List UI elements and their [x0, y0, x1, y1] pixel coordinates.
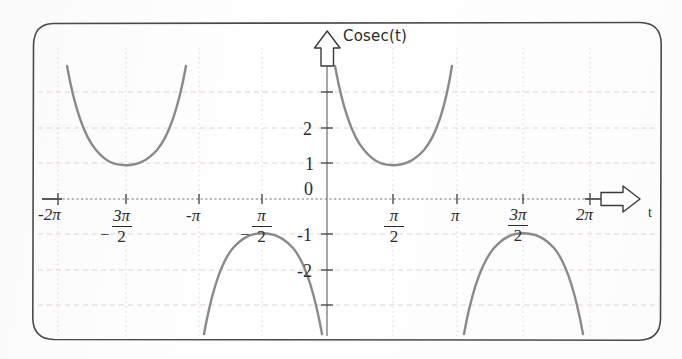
- curve-branch-neg2pi-negpi: [67, 66, 186, 165]
- y-tick-label-1: 1: [305, 155, 314, 173]
- y-tick-label-0: 0: [304, 180, 313, 198]
- x-tick-label-neg-pi: -π: [186, 207, 200, 224]
- y-tick-label-2: 2: [303, 120, 312, 138]
- vertical-gridlines: [58, 48, 590, 336]
- curve-branch-negpi-zero: [204, 233, 322, 334]
- y-axis: [321, 66, 333, 336]
- y-tick-label-neg1: -1: [297, 226, 312, 244]
- hollow-up-arrow-icon: [315, 31, 341, 66]
- horizontal-gridlines: [38, 92, 655, 305]
- fraction-numerator: π: [389, 207, 400, 225]
- x-tick-label-pi-over-2: π 2: [384, 207, 404, 245]
- cosec-curve: [67, 66, 583, 334]
- x-tick-label-pi: π: [451, 207, 460, 224]
- y-axis-title: Cosec(t): [343, 29, 407, 44]
- x-axis-title: t: [648, 206, 652, 220]
- chart-plot-area: [0, 0, 682, 359]
- figure-canvas: Cosec(t) t 2 1 0 -1 -2 -2π − 3π 2 -π − π…: [0, 0, 682, 359]
- fraction-denominator: 2: [513, 227, 524, 245]
- x-tick-label-3pi-over-2: 3π 2: [508, 206, 528, 244]
- fraction-sign: −: [240, 226, 250, 243]
- hollow-right-arrow-icon: [601, 186, 640, 212]
- y-tick-label-neg2: -2: [297, 262, 312, 280]
- fraction-numerator: π: [256, 207, 267, 225]
- x-tick-label-2pi: 2π: [576, 206, 593, 223]
- x-axis: [42, 193, 604, 205]
- fraction-sign: −: [100, 226, 110, 243]
- fraction-denominator: 2: [389, 228, 400, 246]
- fraction-denominator: 2: [256, 228, 267, 246]
- x-tick-label-neg-pi-over-2: − π 2: [240, 207, 272, 245]
- fraction-numerator: 3π: [112, 207, 131, 225]
- x-tick-label-neg-2pi: -2π: [38, 206, 61, 223]
- fraction-numerator: 3π: [508, 206, 527, 224]
- x-tick-label-neg-3pi-over-2: − 3π 2: [100, 207, 132, 245]
- curve-branch-zero-pi: [335, 66, 452, 165]
- fraction-denominator: 2: [116, 228, 127, 246]
